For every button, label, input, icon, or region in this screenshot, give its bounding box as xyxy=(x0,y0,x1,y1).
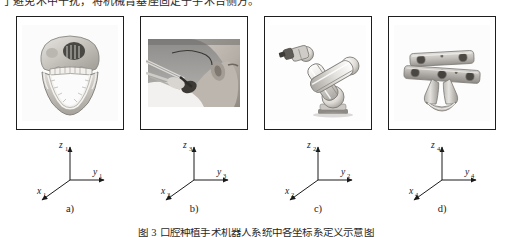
axis-x-label-c: x xyxy=(284,186,290,196)
axis-z-sub-d: 4 xyxy=(437,145,441,152)
robot-arm-icon xyxy=(270,25,366,121)
subfigure-label-c: c) xyxy=(264,203,372,217)
axis-y-sub-a: 1 xyxy=(99,172,102,179)
axis-y-sub-c: 2 xyxy=(347,172,350,179)
surgical-splint-fixture-icon xyxy=(394,25,490,121)
axis-z-sub-c: 2 xyxy=(313,145,316,152)
axis-z-label-d: z xyxy=(430,140,435,150)
axis-triad-c-icon: z 2 y 2 x 2 xyxy=(264,134,372,212)
axis-y-label-b: y xyxy=(216,167,222,177)
panel-strip xyxy=(0,16,512,132)
axis-x-sub-c: 2 xyxy=(291,191,294,198)
axis-x-label-a: x xyxy=(36,186,42,196)
axis-x-label-b: x xyxy=(160,186,166,196)
panel-c-image-box xyxy=(264,16,372,130)
axis-triad-d-icon: z 4 y 4 x 4 xyxy=(388,134,496,212)
top-text-line: 了避免术中干扰，将机械臂基座固定于手术台侧方。 xyxy=(0,0,512,7)
axis-x-sub-a: 1 xyxy=(43,191,46,198)
axis-y-sub-b: 3 xyxy=(223,172,226,179)
axis-y-label-c: y xyxy=(340,167,346,177)
panel-b-image-box xyxy=(140,16,248,130)
coordinate-frame-c: z 2 y 2 x 2 xyxy=(264,134,372,212)
subfigure-label-strip: a) b) c) d) xyxy=(0,203,512,217)
axis-y-sub-d: 4 xyxy=(471,172,475,179)
axis-y-label-a: y xyxy=(92,167,98,177)
figure-caption-row: 图 3 口腔种植手术机器人系统中各坐标系定义示意图 xyxy=(0,228,512,237)
top-text-row: 了避免术中干扰，将机械臂基座固定于手术台侧方。 xyxy=(0,0,512,9)
axis-z-label-b: z xyxy=(182,140,187,150)
panel-d-image-box xyxy=(388,16,496,130)
clinical-surgery-photo-icon xyxy=(146,25,242,121)
axis-x-label-d: x xyxy=(408,186,414,196)
axis-y-label-d: y xyxy=(464,167,470,177)
coordinate-frame-a: z 1 y 1 x 1 xyxy=(16,134,124,212)
coordinate-frame-b: z 3 y 3 x 3 xyxy=(140,134,248,212)
subfigure-label-d: d) xyxy=(388,203,496,217)
axis-triad-a-icon: z 1 y 1 x 1 xyxy=(16,134,124,212)
axis-z-label-a: z xyxy=(58,140,63,150)
subfigure-label-b: b) xyxy=(140,203,248,217)
coordinate-frame-strip: z 1 y 1 x 1 z 3 y 3 x 3 z 2 y xyxy=(0,134,512,212)
mandible-skull-model-icon xyxy=(22,25,118,121)
axis-z-sub-a: 1 xyxy=(65,145,68,152)
axis-z-label-c: z xyxy=(306,140,311,150)
axis-z-sub-b: 3 xyxy=(189,145,192,152)
coordinate-frame-d: z 4 y 4 x 4 xyxy=(388,134,496,212)
subfigure-label-a: a) xyxy=(16,203,124,217)
figure-caption-text: 图 3 口腔种植手术机器人系统中各坐标系定义示意图 xyxy=(0,228,512,237)
axis-triad-b-icon: z 3 y 3 x 3 xyxy=(140,134,248,212)
axis-x-sub-b: 3 xyxy=(167,191,170,198)
panel-a-image-box xyxy=(16,16,124,130)
